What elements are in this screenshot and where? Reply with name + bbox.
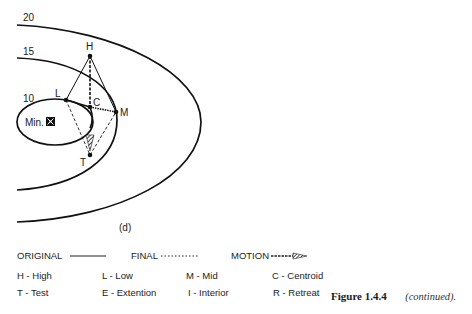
point-M xyxy=(114,110,119,115)
figure-caption: Figure 1.4.4 (continued). xyxy=(331,286,456,304)
key-retreat: R - Retreat xyxy=(273,287,319,298)
point-M-label: M xyxy=(120,107,128,118)
contour-20-label: 20 xyxy=(23,12,35,23)
key-interior: I - Interior xyxy=(188,287,229,298)
point-C-label: C xyxy=(93,97,100,108)
legend-original-label: ORIGINAL xyxy=(17,250,62,261)
original-simplex xyxy=(66,56,116,112)
panel-label: (d) xyxy=(119,222,131,233)
point-key-row-1: H - High L - Low M - Mid C - Centroid xyxy=(0,270,472,284)
contour-15-label: 15 xyxy=(23,46,35,57)
motion-arrowhead-icon xyxy=(86,135,94,151)
original-edge-LM xyxy=(66,100,90,107)
legend-final-label: FINAL xyxy=(131,250,158,261)
minimum-label: Min. xyxy=(25,117,44,128)
key-test: T - Test xyxy=(17,287,48,298)
key-low: L - Low xyxy=(102,270,133,281)
line-style-legend: ORIGINAL FINAL MOTION xyxy=(0,250,472,264)
motion-arrow xyxy=(90,107,92,128)
key-extension: E - Extention xyxy=(102,287,156,298)
motion-arrow-icon xyxy=(271,251,309,260)
contour-10-label: 10 xyxy=(23,93,35,104)
dotted-line-icon xyxy=(161,254,199,258)
point-H xyxy=(88,54,93,59)
crossed-box-icon xyxy=(46,117,55,126)
solid-line-icon xyxy=(70,254,106,258)
point-L xyxy=(64,98,69,103)
point-H-label: H xyxy=(86,41,93,52)
simplex-contour-diagram: 20 15 10 Min. H L C M T (d) xyxy=(0,0,472,240)
figure-number: Figure 1.4.4 xyxy=(331,290,387,302)
key-high: H - High xyxy=(17,270,52,281)
point-T xyxy=(88,153,93,158)
point-C xyxy=(88,105,93,110)
point-L-label: L xyxy=(55,88,61,99)
figure-continued-note: (continued). xyxy=(405,291,456,302)
key-centroid: C - Centroid xyxy=(272,270,323,281)
legend-motion-label: MOTION xyxy=(231,250,269,261)
key-mid: M - Mid xyxy=(186,270,218,281)
point-T-label: T xyxy=(80,157,86,168)
